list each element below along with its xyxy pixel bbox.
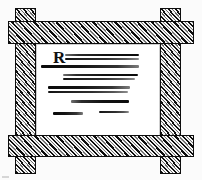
drop-cap-letter: R <box>53 49 65 66</box>
notice-text-line <box>48 86 130 89</box>
notice-text-line <box>99 111 129 113</box>
notice-text-line <box>65 54 139 56</box>
notice-text-line <box>71 100 129 103</box>
scan-artifact-speck <box>2 176 9 178</box>
notice-text-line <box>41 65 139 68</box>
notice-text-line <box>63 78 135 80</box>
frame-rail-bottom <box>8 135 194 157</box>
notice-text-line <box>53 112 83 115</box>
notice-text-line <box>63 74 138 76</box>
notice-content: R <box>36 44 160 136</box>
notice-text-line <box>48 91 128 93</box>
frame-rail-top <box>8 21 194 44</box>
illustration-canvas: R <box>0 0 202 180</box>
notice-text-line <box>65 58 139 60</box>
